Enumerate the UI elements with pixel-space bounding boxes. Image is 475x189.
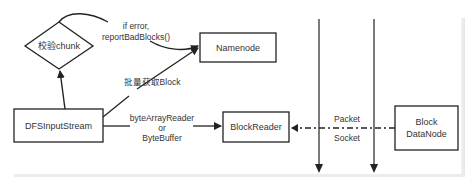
arrow-down-icon: [315, 164, 323, 173]
byte-buffer-label: ByteBuffer: [142, 133, 182, 143]
block-datanode-label-line2: DataNode: [406, 129, 447, 139]
or-label: or: [158, 123, 166, 133]
byte-array-reader-label: byteArrayReader: [130, 113, 194, 123]
packet-label: Packet: [334, 114, 361, 124]
dfs-input-stream-label: DFSInputStream: [25, 121, 92, 131]
block-reader-label: BlockReader: [230, 122, 282, 132]
check-chunk-label: 校验chunk: [38, 40, 81, 51]
arrow-down-icon: [370, 164, 378, 173]
batch-get-block-label: 批量获取Block: [124, 77, 182, 87]
lane-line-2: [370, 19, 378, 173]
block-reader-node[interactable]: BlockReader: [223, 112, 289, 142]
if-error-label: if error,: [123, 21, 149, 31]
block-datanode-label-line1: Block: [415, 117, 438, 127]
namenode-node[interactable]: Namenode: [200, 33, 276, 62]
block-datanode-node[interactable]: Block DataNode: [395, 106, 458, 150]
diagram-canvas: 校验chunk Namenode DFSInputStream BlockRea…: [0, 0, 475, 189]
namenode-label: Namenode: [216, 43, 260, 53]
dfs-input-stream-node[interactable]: DFSInputStream: [14, 109, 103, 142]
check-chunk-node[interactable]: 校验chunk: [25, 22, 93, 69]
report-bad-blocks-label: reportBadBlocks(): [102, 32, 170, 42]
edge-stream-to-namenode: 批量获取Block: [103, 48, 198, 117]
socket-label: Socket: [334, 133, 361, 143]
edge-stream-to-reader: byteArrayReader or ByteBuffer: [103, 113, 221, 143]
edge-datanode-to-reader: Packet Socket: [292, 114, 395, 143]
edge-stream-to-check: [60, 71, 65, 109]
lane-line-1: [315, 19, 323, 173]
